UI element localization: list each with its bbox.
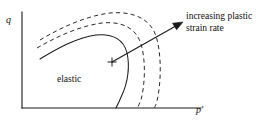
yield-locus-dashed-outer xyxy=(40,13,160,108)
y-axis-label: q xyxy=(6,14,11,26)
annotation-line-2: strain rate xyxy=(186,23,252,35)
yield-surface-figure: q p' elastic increasing plastic strain r… xyxy=(0,0,267,127)
increasing-plastic-strain-rate-label: increasing plastic strain rate xyxy=(186,11,252,35)
stress-state-plus-marker xyxy=(108,58,117,67)
x-axis-label: p' xyxy=(196,104,203,116)
yield-locus-solid xyxy=(40,35,128,108)
elastic-region-label: elastic xyxy=(57,74,81,85)
annotation-line-1: increasing plastic xyxy=(186,11,252,23)
arrow-head-icon xyxy=(173,22,184,30)
